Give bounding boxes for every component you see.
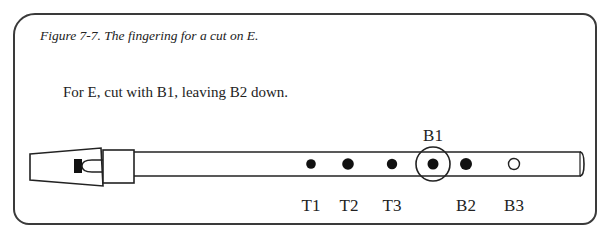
label-b3: B3: [504, 196, 524, 215]
mouthpiece-block-icon: [74, 159, 82, 173]
hole-b1: [428, 159, 439, 170]
label-t1: T1: [302, 196, 321, 215]
hole-b3-open: [509, 159, 520, 170]
hole-b2: [460, 158, 472, 170]
hole-t1: [306, 159, 316, 169]
hole-t3: [387, 159, 397, 169]
whistle-mouthpiece: [30, 148, 103, 186]
label-t2: T2: [340, 196, 359, 215]
label-t3: T3: [383, 196, 402, 215]
whistle-ring: [103, 150, 134, 183]
label-b1: B1: [423, 126, 443, 145]
whistle-diagram: B1 T1 T2 T3 B2 B3: [0, 0, 610, 241]
label-b2: B2: [456, 196, 476, 215]
hole-t2: [342, 158, 354, 170]
